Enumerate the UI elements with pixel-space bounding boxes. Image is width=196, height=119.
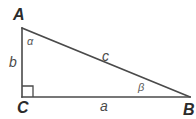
side-label-a: a [100, 99, 108, 113]
angle-label-alpha: α [27, 36, 33, 47]
vertex-label-c: C [17, 100, 29, 116]
vertex-label-a: A [13, 7, 25, 23]
side-label-c: c [102, 49, 109, 63]
vertex-label-b: B [183, 102, 195, 118]
angle-label-beta: β [138, 82, 144, 93]
triangle-drawing [0, 0, 196, 119]
side-label-b: b [9, 55, 17, 69]
right-angle-marker-icon [22, 86, 33, 97]
right-triangle-figure: A B C a b c α β [0, 0, 196, 119]
